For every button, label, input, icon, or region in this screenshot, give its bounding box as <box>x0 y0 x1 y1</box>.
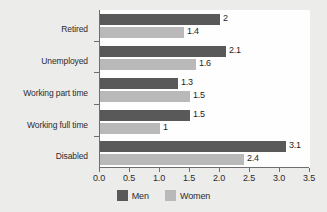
legend-item-women[interactable]: Women <box>165 190 210 201</box>
bar-value-women-working-part-time: 1.5 <box>193 90 205 100</box>
category-label-working-full-time: Working full time <box>27 120 88 130</box>
x-tick-label: 1.0 <box>147 173 171 183</box>
x-axis-tick <box>189 168 190 172</box>
legend-swatch-women-icon <box>165 190 176 201</box>
bar-value-men-disabled: 3.1 <box>289 140 301 150</box>
bar-women-working-full-time <box>100 123 160 134</box>
legend: Men Women <box>0 190 327 201</box>
bar-value-women-retired: 1.4 <box>187 26 199 36</box>
x-axis-tick <box>309 168 310 172</box>
bar-men-working-full-time <box>100 110 190 121</box>
legend-item-men[interactable]: Men <box>117 190 149 201</box>
y-axis-tick <box>94 104 99 105</box>
x-tick-label: 0.5 <box>117 173 141 183</box>
bar-men-unemployed <box>100 46 226 57</box>
x-tick-label: 2.0 <box>207 173 231 183</box>
bar-value-men-working-part-time: 1.3 <box>181 77 193 87</box>
x-tick-label: 0.0 <box>87 173 111 183</box>
x-axis-tick <box>279 168 280 172</box>
x-tick-label: 3.5 <box>297 173 321 183</box>
bar-women-working-part-time <box>100 91 190 102</box>
bar-chart: 0.0 0.5 1.0 1.5 2.0 2.5 3.0 3.5 Retired … <box>0 0 327 212</box>
bar-women-disabled <box>100 154 244 165</box>
category-label-working-part-time: Working part time <box>23 88 88 98</box>
bar-women-unemployed <box>100 59 196 70</box>
bar-value-women-unemployed: 1.6 <box>199 58 211 68</box>
x-axis-line <box>99 167 309 168</box>
bar-women-retired <box>100 27 184 38</box>
bar-men-working-part-time <box>100 78 178 89</box>
x-axis-tick <box>159 168 160 172</box>
x-axis-tick <box>219 168 220 172</box>
bar-value-women-disabled: 2.4 <box>247 153 259 163</box>
x-tick-label: 1.5 <box>177 173 201 183</box>
legend-label-women: Women <box>180 191 210 201</box>
x-axis-tick <box>129 168 130 172</box>
y-axis-tick <box>94 41 99 42</box>
category-label-unemployed: Unemployed <box>41 56 88 66</box>
x-axis-tick <box>99 168 100 172</box>
bar-men-disabled <box>100 141 286 152</box>
y-axis-tick <box>94 136 99 137</box>
x-tick-label: 2.5 <box>237 173 261 183</box>
bar-value-men-working-full-time: 1.5 <box>193 109 205 119</box>
bar-value-men-retired: 2 <box>223 13 228 23</box>
category-label-disabled: Disabled <box>56 151 88 161</box>
legend-swatch-men-icon <box>117 190 128 201</box>
category-label-retired: Retired <box>61 24 88 34</box>
bar-value-women-working-full-time: 1 <box>163 122 168 132</box>
bar-value-men-unemployed: 2.1 <box>229 45 241 55</box>
x-axis-tick <box>249 168 250 172</box>
legend-label-men: Men <box>132 191 149 201</box>
x-tick-label: 3.0 <box>267 173 291 183</box>
bar-men-retired <box>100 14 220 25</box>
y-axis-tick <box>94 72 99 73</box>
